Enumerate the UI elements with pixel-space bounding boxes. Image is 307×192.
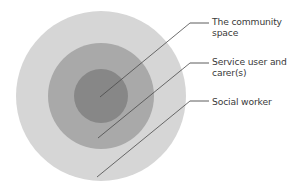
concentric-circles-diagram: The community space Service user and car… (0, 0, 307, 192)
callout-label-social-worker: Social worker (212, 96, 272, 107)
callout-label-community-space: The community space (212, 16, 282, 38)
callout-label-service-user-and-carers: Service user and carer(s) (212, 56, 287, 78)
callout-label-layer: The community space Service user and car… (0, 0, 307, 192)
